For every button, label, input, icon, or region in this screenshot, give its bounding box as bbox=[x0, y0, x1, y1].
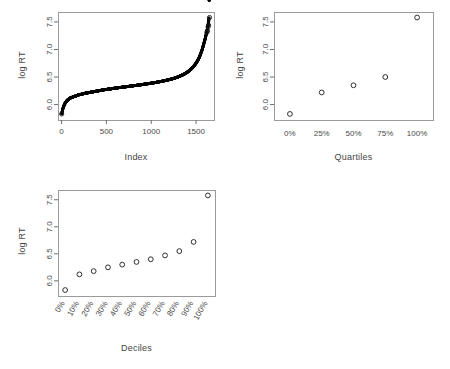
y-tick-label: 7.0 bbox=[262, 43, 271, 55]
decile-points bbox=[63, 193, 211, 292]
y-tick-label: 7.5 bbox=[46, 194, 55, 206]
index-point-cloud bbox=[60, 0, 211, 115]
y-tick-label: 7.0 bbox=[46, 221, 55, 233]
y-tick-label: 7.5 bbox=[46, 16, 55, 28]
x-tick-label: 50% bbox=[122, 300, 138, 318]
x-tick-label: 40% bbox=[108, 300, 124, 318]
quartiles-panel: 6.06.57.07.50%25%50%75%100% log RT Quart… bbox=[228, 0, 450, 180]
plot-frame bbox=[275, 13, 434, 121]
index-panel-xlabel: Index bbox=[58, 152, 214, 162]
x-tick-label: 75% bbox=[377, 129, 393, 138]
x-tick-label: 0% bbox=[284, 129, 296, 138]
x-tick-label: 30% bbox=[94, 300, 110, 318]
deciles-panel-xlabel: Deciles bbox=[58, 343, 215, 353]
deciles-plot-area: 6.06.57.07.50%10%20%30%40%50%60%70%80%90… bbox=[0, 180, 228, 360]
y-tick-label: 7.0 bbox=[46, 43, 55, 55]
x-tick-label: 1500 bbox=[187, 127, 205, 136]
x-tick-label: 60% bbox=[137, 300, 153, 318]
x-tick-label: 500 bbox=[100, 127, 114, 136]
y-tick-label: 6.5 bbox=[46, 248, 55, 260]
x-tick-label: 20% bbox=[80, 300, 96, 318]
index-panel: 6.06.57.07.5050010001500 log RT Index bbox=[0, 0, 228, 180]
x-tick-label: 100% bbox=[407, 129, 427, 138]
x-tick-label: 70% bbox=[151, 300, 167, 318]
y-tick-label: 6.5 bbox=[262, 71, 271, 83]
y-tick-label: 7.5 bbox=[262, 16, 271, 28]
y-tick-label: 6.0 bbox=[46, 98, 55, 110]
y-tick-label: 6.5 bbox=[46, 71, 55, 83]
deciles-panel-ylabel: log RT bbox=[17, 211, 27, 271]
x-tick-label: 0% bbox=[53, 300, 67, 315]
x-tick-label: 1000 bbox=[142, 127, 160, 136]
x-tick-label: 80% bbox=[165, 300, 181, 318]
y-tick-label: 6.0 bbox=[46, 275, 55, 287]
x-tick-label: 25% bbox=[314, 129, 330, 138]
index-panel-ylabel: log RT bbox=[17, 35, 27, 95]
quartiles-panel-xlabel: Quartiles bbox=[274, 152, 433, 162]
x-tick-label: 10% bbox=[65, 300, 81, 318]
quartiles-panel-ylabel: log RT bbox=[235, 35, 245, 95]
quartile-points bbox=[288, 15, 420, 116]
plot-frame bbox=[59, 13, 215, 121]
y-tick-label: 6.0 bbox=[262, 98, 271, 110]
deciles-panel: 6.06.57.07.50%10%20%30%40%50%60%70%80%90… bbox=[0, 180, 228, 360]
x-tick-label: 0 bbox=[59, 127, 64, 136]
x-tick-label: 100% bbox=[192, 300, 210, 322]
x-tick-label: 50% bbox=[345, 129, 361, 138]
